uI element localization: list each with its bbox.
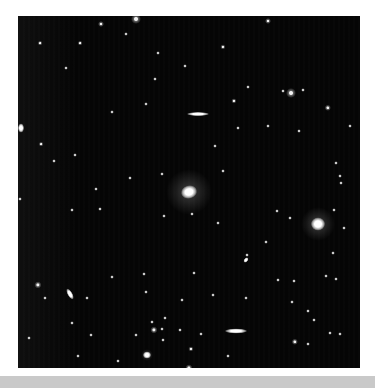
star (73, 153, 77, 157)
star (342, 226, 346, 230)
star (288, 216, 292, 220)
star (18, 197, 22, 201)
star (281, 89, 285, 93)
star (301, 88, 305, 92)
star (180, 298, 184, 302)
star (264, 240, 268, 244)
star (98, 21, 104, 27)
star (275, 209, 279, 213)
star (161, 338, 165, 342)
bottom-bar (0, 376, 375, 388)
galaxy (143, 352, 151, 359)
star (89, 333, 93, 337)
star (265, 18, 271, 24)
star (221, 169, 225, 173)
star (156, 51, 160, 55)
star (328, 331, 332, 335)
star (266, 124, 270, 128)
star (312, 318, 316, 322)
star (192, 271, 196, 275)
star (183, 64, 187, 68)
star (286, 88, 296, 98)
star (199, 332, 203, 336)
star (160, 172, 164, 176)
star (211, 293, 215, 297)
star (150, 320, 154, 324)
star (116, 359, 120, 363)
star (306, 342, 310, 346)
galaxy-field-image (18, 16, 360, 368)
star (178, 328, 182, 332)
star (276, 278, 280, 282)
star (110, 275, 114, 279)
edge-on-galaxy (225, 329, 247, 334)
star (324, 274, 328, 278)
star (163, 316, 167, 320)
star (213, 144, 217, 148)
star (110, 110, 114, 114)
star (142, 272, 146, 276)
star (70, 208, 74, 212)
star (38, 41, 43, 46)
star (128, 176, 132, 180)
star (334, 161, 338, 165)
star (297, 129, 301, 133)
star (43, 296, 47, 300)
edge-glow (18, 16, 78, 368)
star (236, 126, 240, 130)
star (244, 296, 248, 300)
star (246, 85, 250, 89)
star (134, 333, 138, 337)
star (94, 187, 98, 191)
star (39, 142, 44, 147)
star (144, 290, 148, 294)
star (334, 277, 338, 281)
star (338, 174, 342, 178)
star (124, 32, 128, 36)
star (348, 124, 352, 128)
star (78, 41, 83, 46)
star (27, 336, 31, 340)
star (290, 300, 294, 304)
star (70, 321, 74, 325)
star (85, 296, 89, 300)
star (160, 327, 164, 331)
star (331, 251, 335, 255)
star (64, 66, 68, 70)
elliptical-galaxy (311, 218, 325, 231)
star (226, 354, 230, 358)
star (339, 181, 343, 185)
star (144, 102, 148, 106)
star (292, 279, 296, 283)
star (162, 214, 166, 218)
star (98, 207, 102, 211)
star (185, 364, 192, 368)
star (332, 208, 336, 212)
star (76, 354, 80, 358)
star (338, 332, 342, 336)
star (306, 309, 310, 313)
star (52, 159, 56, 163)
star (153, 77, 157, 81)
edge-on-galaxy (187, 112, 209, 116)
galaxy (18, 124, 24, 133)
star (216, 221, 220, 225)
